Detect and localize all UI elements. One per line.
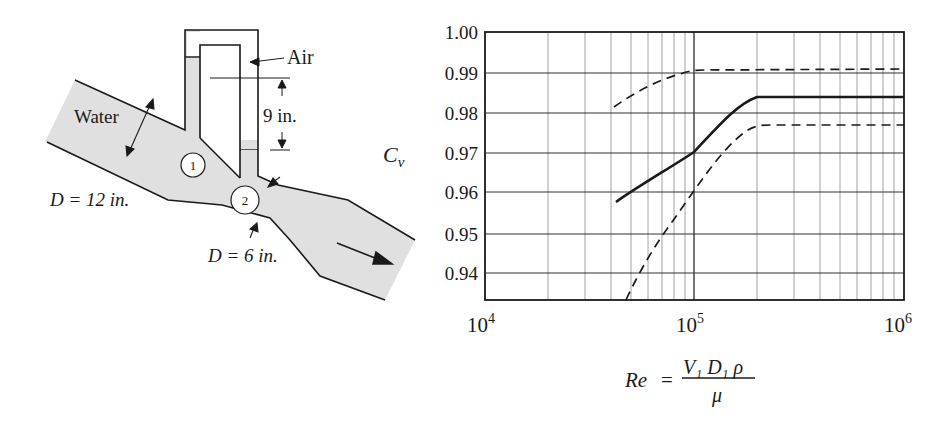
x-axis-label: Re = V₁ D₁ ρ μ [624, 356, 755, 407]
series-lower-bound [626, 125, 904, 300]
y-tick-0.97: 0.97 [445, 143, 478, 164]
y-tick-0.94: 0.94 [445, 263, 479, 284]
water-label: Water [74, 106, 120, 127]
x-tick-1e5-exp: 5 [697, 311, 704, 326]
air-pointer [250, 58, 284, 66]
height-label: 9 in. [263, 105, 297, 126]
air-label: Air [287, 46, 314, 68]
x-tick-1e4-base: 10 [467, 313, 488, 337]
y-tick-0.98: 0.98 [445, 103, 478, 124]
y-axis-label: Cv [383, 142, 405, 170]
figure: 9 in. Air Water D = 12 in. 1 2 D = 6 [0, 0, 951, 422]
air-space [187, 32, 256, 56]
x-tick-1e6: 106 [884, 311, 912, 337]
x-axis-label-numerator: V₁ D₁ ρ [683, 356, 743, 379]
x-tick-labels: 104 105 106 [467, 311, 912, 337]
y-tick-1.00: 1.00 [445, 22, 478, 43]
x-axis-label-denominator: μ [711, 384, 722, 407]
d1-label-text: D = 12 in. [49, 189, 129, 210]
section-1-label: 1 [190, 158, 197, 173]
y-tick-0.95: 0.95 [445, 224, 478, 245]
x-tick-1e4: 104 [467, 311, 495, 337]
venturi-diagram: 9 in. Air Water D = 12 in. 1 2 D = 6 [45, 30, 415, 300]
x-tick-1e6-base: 10 [884, 313, 905, 337]
d1-label: D = 12 in. [49, 189, 129, 210]
x-tick-1e6-exp: 6 [905, 311, 912, 326]
y-axis-label-main: C [383, 142, 398, 167]
y-tick-0.96: 0.96 [445, 182, 478, 203]
y-tick-labels: 1.00 0.99 0.98 0.97 0.96 0.95 0.94 [445, 22, 479, 284]
x-axis-label-equals: = [661, 368, 673, 392]
d2-label: D = 6 in. [207, 245, 278, 266]
y-axis-label-subscript: v [398, 154, 405, 170]
x-axis-label-re: Re [624, 368, 647, 392]
cv-chart: 1.00 0.99 0.98 0.97 0.96 0.95 0.94 Cv 10… [383, 22, 912, 407]
x-tick-1e5-base: 10 [676, 313, 697, 337]
section-2-label: 2 [242, 193, 249, 208]
right-leg-fluid [241, 150, 257, 176]
air-space-right [242, 56, 256, 140]
y-tick-0.99: 0.99 [445, 63, 478, 84]
minor-gridlines [548, 32, 894, 300]
x-tick-1e4-exp: 4 [488, 311, 495, 326]
x-tick-1e5: 105 [676, 311, 704, 337]
series-upper-bound [614, 69, 904, 107]
manometer-inner [200, 56, 240, 138]
